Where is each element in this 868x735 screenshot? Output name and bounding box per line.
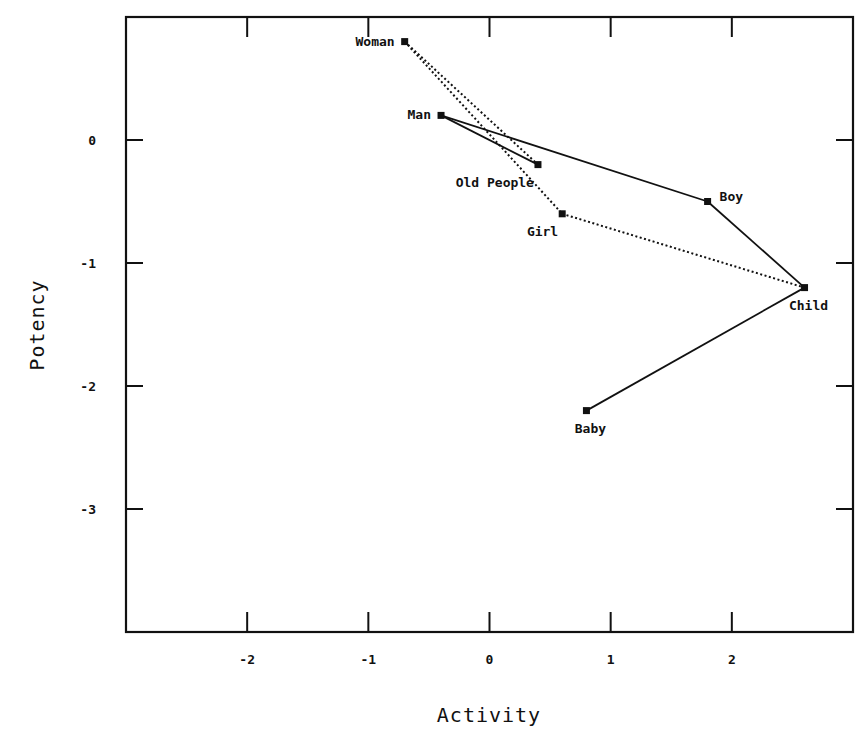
connection-dotted <box>405 42 538 165</box>
connection-lines <box>405 42 805 411</box>
point-label: Woman <box>356 34 395 49</box>
plot-frame <box>126 17 853 632</box>
point-marker <box>401 38 408 45</box>
connection-solid <box>441 115 538 164</box>
axis-ticks: -2-10120-1-2-3 <box>80 17 853 667</box>
x-tick-label: 0 <box>486 652 494 667</box>
point-label: Boy <box>720 189 744 204</box>
x-tick-label: -2 <box>239 652 255 667</box>
point-marker <box>438 112 445 119</box>
x-axis-title: Activity <box>437 703 541 727</box>
x-tick-label: 2 <box>728 652 736 667</box>
y-tick-label: -3 <box>80 502 96 517</box>
point-marker <box>559 210 566 217</box>
data-points: WomanManOld PeopleGirlBoyChildBaby <box>356 34 829 436</box>
x-tick-label: -1 <box>361 652 377 667</box>
point-label: Girl <box>527 224 558 239</box>
connection-solid <box>708 202 805 288</box>
y-tick-label: -2 <box>80 379 96 394</box>
point-marker <box>583 407 590 414</box>
connection-solid <box>586 288 804 411</box>
point-label: Baby <box>575 421 606 436</box>
point-label: Child <box>789 298 828 313</box>
point-label: Old People <box>456 175 534 190</box>
point-marker <box>704 198 711 205</box>
y-tick-label: -1 <box>80 256 96 271</box>
point-marker <box>534 161 541 168</box>
point-marker <box>801 284 808 291</box>
y-tick-label: 0 <box>88 133 96 148</box>
connection-dotted <box>562 214 804 288</box>
point-label: Man <box>408 107 431 122</box>
chart-svg: -2-10120-1-2-3 WomanManOld PeopleGirlBoy… <box>0 0 868 735</box>
y-axis-title: Potency <box>25 279 49 370</box>
x-tick-label: 1 <box>607 652 615 667</box>
